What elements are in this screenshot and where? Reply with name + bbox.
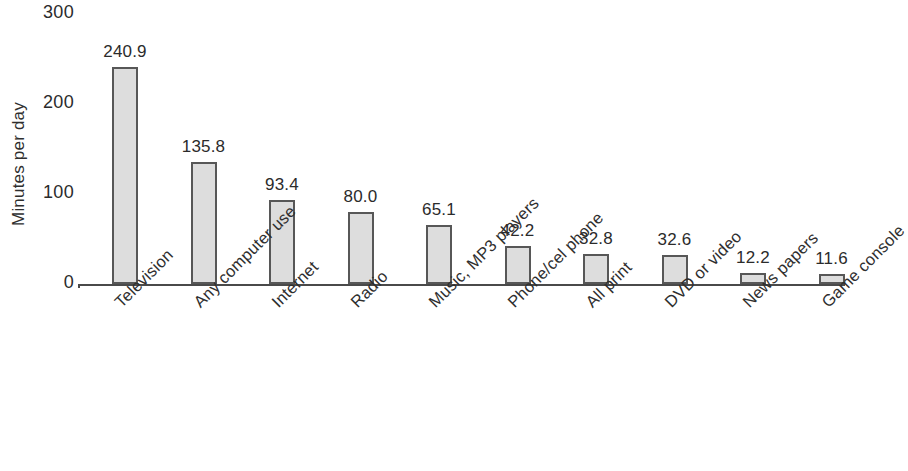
y-axis-title: Minutes per day: [9, 79, 29, 249]
bar-value-label: 135.8: [182, 137, 226, 157]
bar-group: 240.9: [112, 0, 138, 284]
y-tick-label-300: 300: [28, 2, 74, 23]
bar: [112, 67, 138, 284]
bar-group: 32.6: [662, 0, 688, 284]
y-tick-label-0: 0: [28, 272, 74, 293]
bar: [348, 212, 374, 284]
bar-value-label: 80.0: [344, 187, 378, 207]
bar-value-label: 32.6: [658, 230, 692, 250]
y-tick-label-200: 200: [28, 92, 74, 113]
bar-value-label: 12.2: [736, 248, 770, 268]
bar-value-label: 65.1: [422, 200, 456, 220]
bar-value-label: 240.9: [103, 42, 147, 62]
bar-value-label: 11.6: [815, 249, 848, 269]
bar: [191, 162, 217, 284]
bar-group: 135.8: [191, 0, 217, 284]
x-axis-origin-tick: [78, 284, 80, 288]
bar-group: 80.0: [348, 0, 374, 284]
bar-value-label: 93.4: [265, 175, 299, 195]
bar-group: 65.1: [426, 0, 452, 284]
y-tick-label-100: 100: [28, 182, 74, 203]
